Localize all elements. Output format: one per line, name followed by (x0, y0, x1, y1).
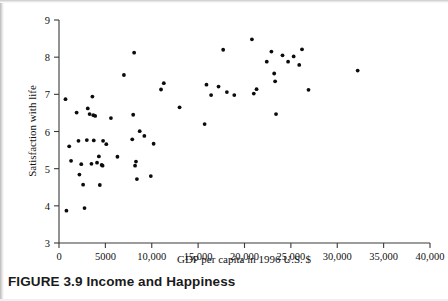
figure-caption-number: FIGURE 3.9 (8, 274, 83, 289)
data-point (122, 73, 126, 77)
data-point (78, 173, 82, 177)
scatter-chart: 0500010,00015,00020,00025,00030,00035,00… (0, 0, 448, 268)
data-point (101, 139, 105, 143)
y-tick-label: 5 (45, 164, 50, 175)
data-point (81, 183, 85, 187)
x-tick-label: 5000 (95, 251, 116, 262)
data-point (297, 63, 301, 67)
x-tick-label: 10,000 (137, 251, 166, 262)
data-point (274, 112, 278, 116)
figure-page: 0500010,00015,00020,00025,00030,00035,00… (0, 0, 448, 301)
data-point (138, 129, 142, 133)
y-tick-label: 9 (45, 15, 50, 26)
data-point (270, 50, 274, 54)
data-point (90, 95, 94, 99)
data-point (88, 112, 92, 116)
data-point (69, 159, 73, 163)
figure-caption: FIGURE 3.9 Income and Happiness (8, 274, 444, 289)
data-point (272, 72, 276, 76)
data-point (95, 161, 99, 165)
data-point (86, 107, 90, 111)
data-point (255, 87, 259, 91)
data-point (149, 174, 153, 178)
data-point (134, 160, 138, 164)
data-point (77, 139, 81, 143)
y-tick-label: 4 (45, 201, 51, 212)
scatter-plot-figure: 0500010,00015,00020,00025,00030,00035,00… (0, 0, 448, 268)
x-tick-label: 35,000 (369, 251, 398, 262)
data-point (132, 51, 136, 55)
y-axis-title: Satisfaction with life (26, 85, 38, 177)
data-point (159, 88, 163, 92)
data-point (65, 209, 69, 213)
data-point (273, 79, 277, 83)
data-point (92, 139, 96, 143)
data-point (142, 134, 146, 138)
y-tick-label: 6 (45, 127, 50, 138)
data-point (252, 92, 256, 96)
chart-ticks (54, 20, 430, 248)
data-point (292, 55, 296, 59)
data-point (133, 164, 137, 168)
y-tick-label: 7 (45, 89, 50, 100)
data-point (75, 111, 79, 115)
data-point (225, 90, 229, 94)
data-point (203, 122, 207, 126)
data-point (135, 177, 139, 181)
data-point (97, 155, 101, 159)
data-point (178, 105, 182, 109)
data-point (356, 69, 360, 73)
data-point (130, 137, 134, 141)
x-tick-label: 30,000 (323, 251, 352, 262)
data-point (307, 88, 311, 92)
data-point (90, 162, 94, 166)
data-point (104, 142, 108, 146)
data-point (109, 116, 113, 120)
data-point (131, 113, 135, 117)
data-point (116, 155, 120, 159)
x-tick-label: 0 (56, 251, 61, 262)
data-point (93, 114, 97, 118)
data-point (265, 60, 269, 64)
data-point (221, 48, 225, 52)
data-point (217, 85, 221, 89)
data-point (281, 53, 285, 57)
y-tick-label: 3 (45, 238, 50, 249)
x-tick-label: 40,000 (416, 251, 445, 262)
data-point (250, 37, 254, 41)
data-point (64, 97, 68, 101)
chart-axes (59, 20, 430, 243)
data-point (286, 60, 290, 64)
data-point (98, 183, 102, 187)
figure-caption-title: Income and Happiness (86, 274, 235, 289)
data-point (79, 162, 83, 166)
data-point (209, 93, 213, 97)
data-point (300, 47, 304, 51)
data-point (205, 83, 209, 87)
data-point (152, 142, 156, 146)
y-axis-tick-labels: 3456789 (45, 15, 51, 249)
data-point (232, 93, 236, 97)
data-point (85, 138, 89, 142)
data-point (162, 81, 166, 85)
data-point (83, 206, 87, 210)
data-points (64, 37, 360, 212)
data-point (101, 164, 105, 168)
x-axis-title: GDP per capita in 1996 U.S. $ (177, 253, 312, 265)
y-tick-label: 8 (45, 52, 50, 63)
data-point (67, 144, 71, 148)
